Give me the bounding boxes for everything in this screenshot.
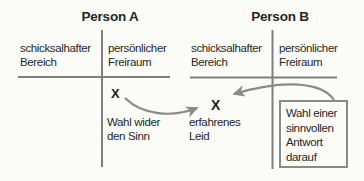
person-b-caption: erfahrenes Leid	[189, 115, 255, 143]
person-a-fate-label: schicksalhafter Bereich	[20, 42, 90, 69]
person-b-freedom-label: persönlicher Freiraum	[279, 42, 337, 69]
person-a-freedom-label: persönlicher Freiraum	[108, 42, 166, 69]
person-b-title: Person B	[235, 9, 325, 24]
person-b-x-mark: X	[211, 98, 220, 112]
person-b-fate-label: schicksalhafter Bereich	[191, 42, 261, 69]
person-a-title: Person A	[65, 9, 155, 24]
sinnvolle-antwort-box: Wahl einer sinnvollen Antwort darauf	[279, 100, 348, 168]
person-a-caption: Wahl wider den Sinn	[107, 115, 169, 143]
person-a-x-mark: X	[111, 87, 120, 100]
diagram-canvas: Person A Person B schicksalhafter Bereic…	[0, 0, 364, 181]
arrow-wahl-to-leid	[125, 98, 197, 114]
arrow-antwort-to-leid	[234, 84, 334, 100]
